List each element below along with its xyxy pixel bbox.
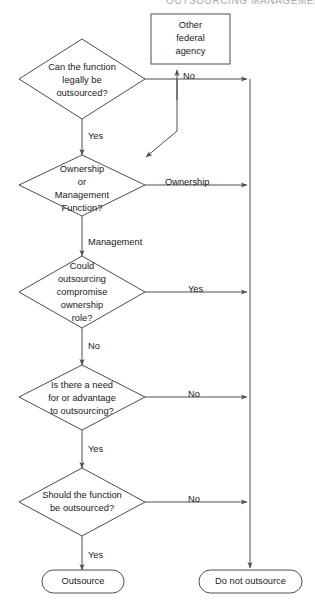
other-federal-agency-line-3: agency: [176, 46, 206, 56]
decision-ownership-line-3: Management: [55, 190, 110, 200]
terminal-do-not-outsource-label: Do not outsource: [215, 576, 286, 586]
edge-label-should-no: No: [188, 494, 200, 504]
node-decision-legal[interactable]: Can the function legally be outsourced?: [19, 39, 145, 119]
decision-legal-line-1: Can the function: [48, 62, 116, 72]
decision-need-line-2: for or advantage: [48, 393, 116, 403]
node-decision-need[interactable]: Is there a need for or advantage to outs…: [19, 365, 145, 430]
edge-label-need-no: No: [188, 389, 200, 399]
decision-ownership-line-1: Ownership: [60, 164, 104, 174]
decision-compromise-line-3: compromise: [57, 287, 108, 297]
edge-label-need-yes: Yes: [88, 444, 104, 454]
decision-compromise-line-2: outsourcing: [58, 274, 106, 284]
decision-ownership-line-4: Function?: [62, 203, 103, 213]
other-federal-agency-line-2: federal: [176, 33, 204, 43]
node-decision-ownership[interactable]: Ownership or Management Function?: [19, 155, 145, 216]
flowchart-svg: Other federal agency Can the function le…: [0, 0, 315, 612]
decision-compromise-line-4: ownership: [61, 300, 103, 310]
edge-label-ownership-branch: Ownership: [165, 177, 209, 187]
edge-label-legal-no: No: [183, 71, 195, 81]
node-decision-should[interactable]: Should the function be outsourced?: [19, 468, 145, 536]
node-terminal-do-not-outsource[interactable]: Do not outsource: [199, 570, 302, 593]
decision-legal-line-3: outsourced?: [56, 88, 107, 98]
terminal-outsource-label: Outsource: [62, 576, 105, 586]
edge-label-should-yes: Yes: [88, 550, 104, 560]
decision-compromise-line-5: role?: [72, 313, 93, 323]
decision-should-line-1: Should the function: [42, 490, 122, 500]
node-other-federal-agency[interactable]: Other federal agency: [151, 14, 230, 64]
decision-legal-line-2: legally be: [62, 75, 101, 85]
decision-need-line-1: Is there a need: [51, 380, 113, 390]
decision-compromise-line-1: Could: [70, 261, 94, 271]
decision-should-line-2: be outsourced?: [50, 503, 114, 513]
flowchart-canvas: OUTSOURCING MANAGEMENT F: [0, 0, 315, 612]
decision-need-line-3: to outsourcing?: [50, 406, 114, 416]
edge-label-compromise-no: No: [88, 341, 100, 351]
edge-label-management-branch: Management: [88, 237, 143, 247]
decision-ownership-line-2: or: [78, 177, 86, 187]
edge-agency-to-ownership: [146, 79, 177, 157]
node-terminal-outsource[interactable]: Outsource: [42, 570, 124, 593]
edge-label-legal-yes: Yes: [88, 131, 104, 141]
other-federal-agency-line-1: Other: [179, 20, 202, 30]
edge-label-compromise-yes: Yes: [188, 284, 204, 294]
node-decision-compromise[interactable]: Could outsourcing compromise ownership r…: [19, 256, 145, 328]
